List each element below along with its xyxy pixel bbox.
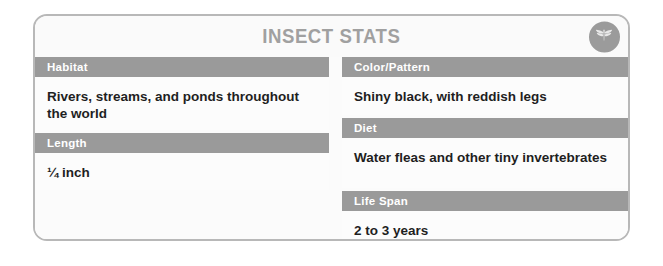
column-left-filler <box>35 190 329 241</box>
field-value-life-span: 2 to 3 years <box>342 211 628 241</box>
field-label-diet: Diet <box>342 118 628 138</box>
field-value-diet: Water fleas and other tiny invertebrates <box>342 138 628 188</box>
card-titlebar: INSECT STATS <box>35 16 628 57</box>
dragonfly-icon <box>594 29 615 45</box>
stats-column-right: Color/Pattern Shiny black, with reddish … <box>342 57 628 241</box>
field-label-life-span: Life Span <box>342 191 628 211</box>
field-value-habitat: Rivers, streams, and ponds throughout th… <box>35 77 329 130</box>
dragonfly-badge <box>589 21 620 52</box>
insect-stats-card: INSECT STATS Habitat River <box>33 14 630 241</box>
field-label-length: Length <box>35 133 329 153</box>
column-gutter <box>329 57 342 241</box>
field-label-habitat: Habitat <box>35 57 329 77</box>
card-body: Habitat Rivers, streams, and ponds throu… <box>35 57 628 241</box>
page-title: INSECT STATS <box>262 25 400 48</box>
field-value-length: ¼ inch <box>35 153 329 190</box>
field-label-color-pattern: Color/Pattern <box>342 57 628 77</box>
field-value-color-pattern: Shiny black, with reddish legs <box>342 77 628 115</box>
stats-column-left: Habitat Rivers, streams, and ponds throu… <box>35 57 329 241</box>
